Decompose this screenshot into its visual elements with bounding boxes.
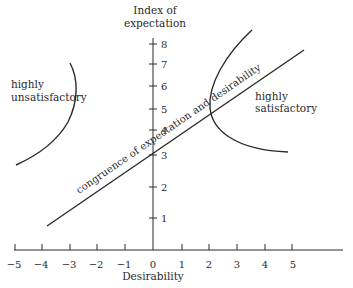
x-tick-label: 3 — [234, 259, 240, 270]
unsatisfactory-label-line1: highly — [11, 78, 44, 90]
congruence-line — [47, 50, 304, 226]
y-axis-title-line1: Index of — [133, 4, 177, 16]
x-tick-label: −3 — [62, 259, 77, 270]
y-tick-label: 8 — [161, 39, 167, 50]
x-tick-label: −4 — [34, 259, 49, 270]
x-axis: −5 −4 −3 −2 −1 0 1 2 3 4 5 Desirability — [7, 244, 343, 282]
congruence-label: congruence of expectation and desirabili… — [74, 61, 263, 195]
x-tick-label: 2 — [206, 259, 212, 270]
satisfactory-label-line1: highly — [255, 90, 288, 102]
x-axis-title: Desirability — [122, 270, 184, 282]
expectation-desirability-diagram: −5 −4 −3 −2 −1 0 1 2 3 4 5 Desirability … — [0, 0, 353, 288]
x-tick-label: 0 — [150, 259, 156, 270]
x-tick-label: 4 — [262, 259, 268, 270]
y-tick-label: 6 — [161, 81, 167, 92]
satisfactory-label-line2: satisfactory — [255, 102, 317, 114]
x-tick-label: −2 — [89, 259, 104, 270]
x-tick-label: −5 — [7, 259, 22, 270]
y-axis-title-line2: expectation — [124, 17, 186, 29]
y-tick-label: 2 — [161, 182, 167, 193]
y-tick-label: 1 — [161, 213, 167, 224]
x-tick-label: 5 — [290, 259, 296, 270]
y-tick-label: 3 — [161, 150, 167, 161]
unsatisfactory-label-line2: unsatisfactory — [11, 91, 87, 103]
x-tick-label: 1 — [179, 259, 185, 270]
x-tick-label: −1 — [117, 259, 132, 270]
y-tick-label: 5 — [161, 104, 167, 115]
y-tick-label: 7 — [161, 59, 167, 70]
